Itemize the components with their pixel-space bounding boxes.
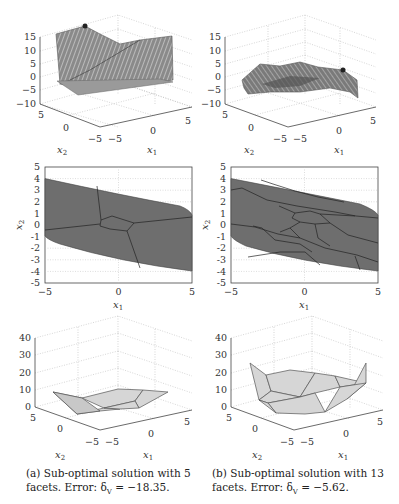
svg-text:5: 5 (185, 115, 191, 126)
svg-text:3: 3 (220, 184, 226, 195)
svg-text:5: 5 (226, 412, 232, 423)
svg-text:x1: x1 (113, 299, 123, 312)
svg-text:5: 5 (215, 58, 221, 69)
svg-text:x2: x2 (252, 449, 262, 462)
svg-text:20: 20 (215, 367, 227, 378)
x2-axis-label: x2 (57, 144, 67, 157)
svg-text:0: 0 (63, 122, 69, 133)
svg-text:0: 0 (301, 286, 307, 297)
svg-text:5: 5 (377, 416, 383, 427)
svg-text:10: 10 (24, 45, 36, 56)
svg-text:-4: -4 (217, 266, 226, 277)
svg-text:0: 0 (343, 428, 349, 439)
caption-b-line1: (b) Sub-optimal solution with 13 (212, 466, 384, 480)
svg-text:4: 4 (34, 173, 40, 184)
svg-text:−5: −5 (280, 436, 294, 447)
panel-b-bottom-3d-plot: 40 30 20 10 0 5 0 −5 −5 0 5 x2 x1 (215, 316, 383, 462)
svg-text:-1: -1 (31, 231, 40, 242)
panel-a-partition-plot: 5 4 3 2 1 0 -1 -2 -3 -4 -5 −5 0 5 x1 x2 (13, 161, 195, 312)
caption-b: (b) Sub-optimal solution with 13 facets.… (212, 466, 384, 499)
svg-text:5: 5 (34, 161, 40, 172)
svg-text:5: 5 (184, 416, 190, 427)
svg-text:10: 10 (209, 45, 221, 56)
svg-text:0: 0 (221, 401, 227, 412)
svg-text:2: 2 (220, 196, 226, 207)
figure-canvas: 15 10 5 0 −5 −10 5 0 −5 −5 0 5 x2 x1 (0, 0, 399, 504)
svg-text:15: 15 (24, 31, 36, 42)
svg-text:0: 0 (115, 286, 121, 297)
caption-a-line2: facets. Error: δV = −18.35. (26, 480, 191, 499)
svg-text:20: 20 (19, 367, 31, 378)
svg-text:-2: -2 (31, 242, 40, 253)
svg-text:0: 0 (30, 71, 36, 82)
svg-text:5: 5 (189, 286, 195, 297)
svg-text:0: 0 (336, 125, 342, 136)
svg-text:15: 15 (209, 31, 221, 42)
svg-text:-2: -2 (217, 242, 226, 253)
panel-b-top-3d-plot: 15 10 5 0 −5 −10 5 0 −5 −5 0 5 x2 x1 (201, 15, 376, 157)
svg-text:−5: −5 (105, 436, 119, 447)
svg-text:-1: -1 (217, 231, 226, 242)
svg-text:1: 1 (34, 208, 40, 219)
svg-text:5: 5 (375, 286, 381, 297)
svg-text:30: 30 (19, 349, 31, 360)
approximation-plane (57, 79, 173, 95)
svg-text:3: 3 (34, 184, 40, 195)
svg-text:0: 0 (57, 423, 63, 434)
svg-text:−5: −5 (38, 286, 52, 297)
svg-text:−5: −5 (108, 133, 122, 144)
svg-text:−5: −5 (207, 84, 221, 95)
svg-text:5: 5 (220, 161, 226, 172)
svg-text:2: 2 (34, 196, 40, 207)
svg-text:x2: x2 (199, 220, 212, 230)
svg-text:10: 10 (215, 384, 227, 395)
value-function-surface (56, 26, 173, 88)
svg-text:1: 1 (220, 208, 226, 219)
svg-text:0: 0 (252, 423, 258, 434)
svg-text:-4: -4 (31, 266, 40, 277)
caption-a: (a) Sub-optimal solution with 5 facets. … (26, 466, 191, 499)
svg-text:5: 5 (30, 58, 36, 69)
svg-text:x2: x2 (244, 144, 254, 157)
svg-text:x1: x1 (299, 299, 309, 312)
svg-text:-3: -3 (217, 254, 226, 265)
svg-text:0: 0 (215, 71, 221, 82)
svg-text:x1: x1 (338, 449, 348, 462)
svg-text:−5: −5 (85, 436, 99, 447)
svg-text:4: 4 (220, 173, 226, 184)
svg-text:−5: −5 (22, 84, 36, 95)
panel-b-partition-plot: 5 4 3 2 1 0 -1 -2 -3 -4 -5 −5 0 5 x1 x2 (199, 161, 381, 312)
svg-text:x2: x2 (13, 220, 26, 230)
svg-text:40: 40 (215, 332, 227, 343)
svg-text:−5: −5 (293, 133, 307, 144)
max-error-marker (341, 68, 346, 73)
svg-text:x1: x1 (334, 144, 344, 157)
svg-text:40: 40 (19, 332, 31, 343)
svg-text:x1: x1 (143, 449, 153, 462)
svg-text:10: 10 (19, 384, 31, 395)
svg-text:0: 0 (248, 122, 254, 133)
svg-text:0: 0 (148, 428, 154, 439)
max-error-marker (83, 24, 88, 29)
x1-axis-label: x1 (147, 144, 157, 157)
svg-text:−10: −10 (201, 98, 221, 109)
svg-text:0: 0 (25, 401, 31, 412)
svg-text:x2: x2 (55, 449, 65, 462)
svg-text:5: 5 (222, 109, 228, 120)
svg-text:0: 0 (34, 219, 40, 230)
svg-text:5: 5 (38, 109, 44, 120)
svg-text:5: 5 (370, 115, 376, 126)
svg-text:-3: -3 (31, 254, 40, 265)
piecewise-affine-surface (250, 363, 366, 414)
svg-text:−10: −10 (16, 98, 36, 109)
piecewise-affine-surface (53, 389, 168, 414)
svg-text:30: 30 (215, 349, 227, 360)
caption-b-line2: facets. Error: δV = −5.62. (212, 480, 384, 499)
svg-text:−5: −5 (88, 133, 102, 144)
svg-text:0: 0 (150, 125, 156, 136)
panel-a-top-3d-plot: 15 10 5 0 −5 −10 5 0 −5 −5 0 5 x2 x1 (16, 15, 192, 157)
svg-text:−5: −5 (224, 286, 238, 297)
z-axis-ticks: 15 10 5 0 −5 −10 (16, 31, 36, 109)
svg-text:−5: −5 (300, 436, 314, 447)
svg-text:5: 5 (30, 412, 36, 423)
